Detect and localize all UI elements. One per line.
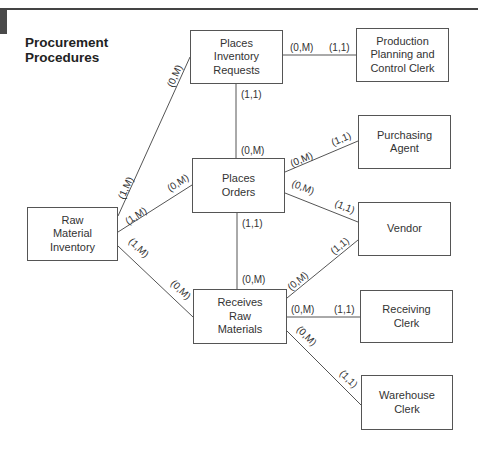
entity-text: Inventory <box>50 241 95 255</box>
entity-purchasing-agent: Purchasing Agent <box>358 115 451 169</box>
entity-text: Purchasing <box>377 129 432 143</box>
card-rrm-vendor-to: (1,1) <box>328 235 351 257</box>
entity-text: Raw <box>217 310 262 324</box>
entity-text: Places <box>213 37 259 51</box>
entity-text: Requests <box>213 64 259 78</box>
card-po-rrm-from: (1,1) <box>242 218 263 229</box>
entity-text: Production <box>370 35 434 49</box>
entity-text: Clerk <box>379 403 435 417</box>
entity-text: Receiving <box>382 303 430 317</box>
entity-text: Warehouse <box>379 389 435 403</box>
card-pir-ppcc-to: (1,1) <box>329 42 350 53</box>
card-pir-po-from: (1,1) <box>241 89 262 100</box>
entity-places-inventory-requests: Places Inventory Requests <box>190 30 283 84</box>
entity-text: Control Clerk <box>370 62 434 76</box>
entity-receives-raw-materials: Receives Raw Materials <box>193 289 287 344</box>
card-po-rrm-to: (0,M) <box>242 274 265 285</box>
entity-text: Materials <box>217 323 262 337</box>
entity-warehouse-clerk: Warehouse Clerk <box>361 375 453 430</box>
card-po-vendor-from: (0,M) <box>290 178 316 197</box>
entity-text: Agent <box>377 142 432 156</box>
card-rmi-po-from: (1,M) <box>123 205 149 227</box>
card-pir-po-to: (0,M) <box>241 145 264 156</box>
entity-production-planning-clerk: Production Planning and Control Clerk <box>356 28 449 82</box>
card-po-vendor-to: (1,1) <box>333 198 356 216</box>
card-rrm-rc-from: (0,M) <box>291 304 314 315</box>
card-rrm-wc-to: (1,1) <box>338 368 360 390</box>
entity-text: Orders <box>222 186 256 200</box>
entity-text: Planning and <box>370 48 434 62</box>
entity-receiving-clerk: Receiving Clerk <box>360 290 453 343</box>
entity-text: Vendor <box>387 222 422 236</box>
card-rmi-po-to: (0,M) <box>165 172 191 194</box>
card-rmi-pir-from: (1,M) <box>116 175 136 201</box>
card-po-pa-from: (0,M) <box>288 150 314 169</box>
card-rrm-wc-from: (0,M) <box>295 324 319 348</box>
entity-text: Receives <box>217 296 262 310</box>
entity-text: Inventory <box>213 50 259 64</box>
entity-vendor: Vendor <box>358 202 451 256</box>
card-rrm-rc-to: (1,1) <box>334 304 355 315</box>
entity-places-orders: Places Orders <box>192 158 285 213</box>
entity-raw-material-inventory: Raw Material Inventory <box>27 207 118 261</box>
entity-text: Clerk <box>382 317 430 331</box>
entity-text: Material <box>50 227 95 241</box>
card-pir-ppcc-from: (0,M) <box>290 42 313 53</box>
entity-text: Raw <box>50 214 95 228</box>
entity-text: Places <box>222 172 256 186</box>
card-rmi-rrm-from: (1,M) <box>127 236 151 260</box>
